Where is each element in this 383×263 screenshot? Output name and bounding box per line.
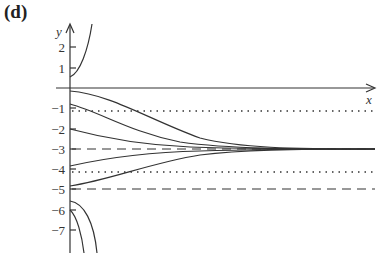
y-tick-label: 1: [59, 61, 66, 76]
phase-diagram: y x 2 1 −1 −2 −3 −4 −5 −6 −7: [0, 0, 383, 263]
y-tick-label: −4: [51, 162, 65, 177]
blowdown-curve-2: [70, 210, 84, 253]
y-tick-label: −1: [51, 101, 65, 116]
solution-curve-1: [70, 91, 375, 149]
y-tick-label: −2: [51, 122, 65, 137]
y-tick-label: −3: [51, 142, 65, 157]
y-tick-label: −6: [51, 203, 65, 218]
y-tick-label: −7: [51, 223, 65, 238]
y-tick-label: 2: [59, 40, 66, 55]
y-tick-label: −5: [51, 182, 65, 197]
solution-curve-5: [70, 149, 375, 186]
solution-curve-4: [70, 149, 375, 166]
y-axis-label: y: [54, 24, 62, 39]
x-axis-label: x: [365, 92, 372, 107]
